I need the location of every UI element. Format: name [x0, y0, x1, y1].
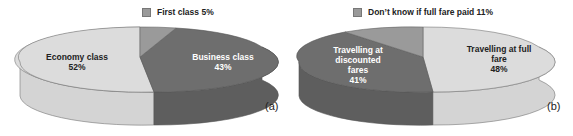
slice-label-economy: Economy class 52%: [42, 52, 112, 72]
slice-percent: 52%: [42, 62, 112, 72]
slice-name: Business class: [188, 52, 258, 62]
slice-name-line: fares: [323, 65, 393, 75]
legend-first-class: First class 5%: [142, 7, 214, 17]
pie-chart-a: First class 5% Economy class 52% Busines…: [0, 0, 290, 136]
legend-swatch: [142, 8, 151, 17]
legend-dont-know: Don’t know if full fare paid 11%: [353, 7, 493, 17]
legend-label: First class 5%: [157, 7, 214, 17]
slice-name-line: discounted: [323, 55, 393, 65]
slice-percent: 41%: [323, 75, 393, 85]
slice-percent: 43%: [188, 62, 258, 72]
panel-tag-b: (b): [547, 100, 560, 112]
slice-name-line: Travelling at: [323, 45, 393, 55]
slice-label-discounted: Travelling at discounted fares 41%: [323, 45, 393, 85]
slice-name: Economy class: [42, 52, 112, 62]
legend-swatch: [353, 8, 362, 17]
panel-tag-a: (a): [265, 100, 278, 112]
slice-name-line: Travelling at full: [461, 44, 537, 54]
slice-name-line: fare: [461, 54, 537, 64]
pie-chart-b: Don’t know if full fare paid 11% Travell…: [283, 0, 573, 136]
slice-label-full-fare: Travelling at full fare 48%: [461, 44, 537, 74]
slice-percent: 48%: [461, 64, 537, 74]
slice-label-business: Business class 43%: [188, 52, 258, 72]
legend-label: Don’t know if full fare paid 11%: [368, 7, 493, 17]
